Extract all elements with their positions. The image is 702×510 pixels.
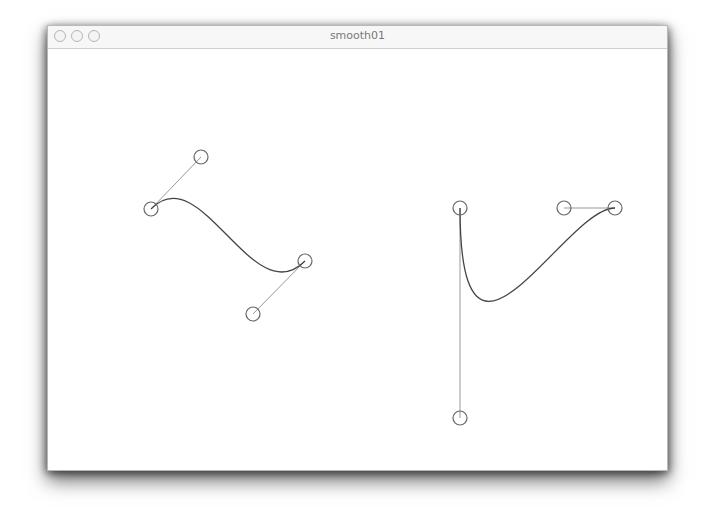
handle-line xyxy=(253,261,305,314)
curve-path xyxy=(151,198,305,272)
bezier-curve-2 xyxy=(453,201,622,425)
bezier-curve-1 xyxy=(144,150,312,321)
sketch-canvas[interactable] xyxy=(48,49,667,470)
app-window: smooth01 xyxy=(47,25,668,471)
window-title: smooth01 xyxy=(48,29,667,42)
title-bar[interactable]: smooth01 xyxy=(48,26,667,49)
handle-line xyxy=(151,157,201,209)
curve-path xyxy=(460,208,615,301)
